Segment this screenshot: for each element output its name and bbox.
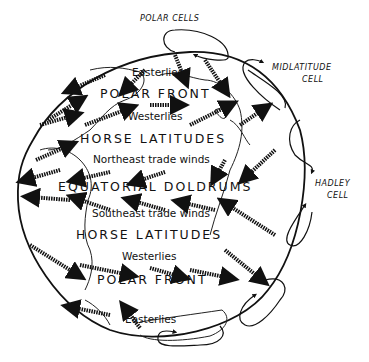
equatorial-doldrums-label: EQUATORIAL DOLDRUMS <box>58 181 252 194</box>
polar-cell-north <box>164 30 228 60</box>
polar-cells-label: POLAR CELLS <box>140 15 199 23</box>
midlatitude-cell-label-line2: CELL <box>302 76 324 84</box>
north-horse-latitudes-label: HORSE LATITUDES <box>80 133 226 146</box>
hadley-cell-north <box>290 120 313 172</box>
north-polar-front-label: POLAR FRONT <box>100 88 211 101</box>
northeast-trade-winds-label: Northeast trade winds <box>93 154 210 165</box>
hadley-cell-label-line2: CELL <box>327 192 349 200</box>
south-westerlies-label: Westerlies <box>122 251 176 262</box>
southeast-trade-winds-label: Southeast trade winds <box>92 208 210 219</box>
south-horse-latitudes-label: HORSE LATITUDES <box>76 229 222 242</box>
midlatitude-cell-south <box>240 279 285 326</box>
south-polar-front-label: POLAR FRONT <box>97 274 208 287</box>
south-easterlies-label: Easterlies <box>125 314 176 325</box>
midlatitude-cell-label-line1: MIDLATITUDE <box>272 64 331 72</box>
hadley-cell-label-line1: HADLEY <box>315 180 350 188</box>
north-easterlies-label: Easterlies <box>132 67 183 78</box>
north-westerlies-label: Westerlies <box>128 111 182 122</box>
hadley-cell-south <box>287 205 312 246</box>
